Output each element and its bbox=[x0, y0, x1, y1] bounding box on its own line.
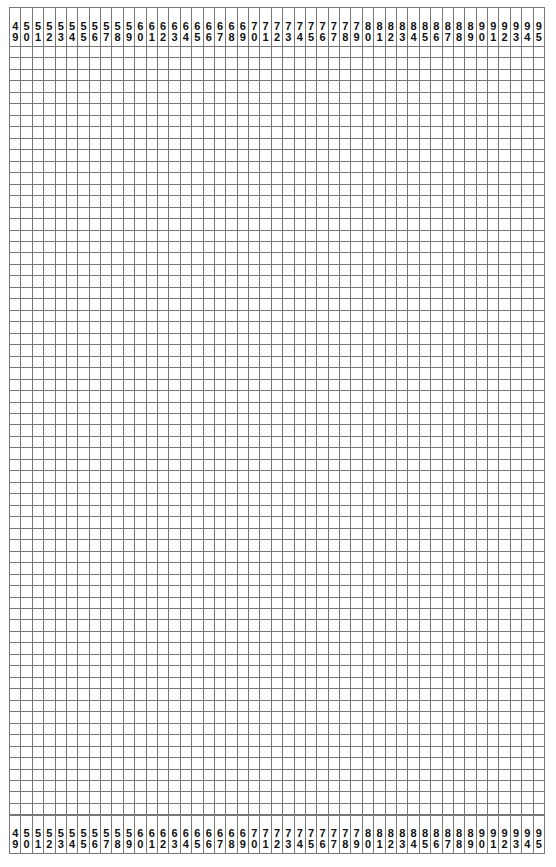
grid-cell bbox=[33, 299, 44, 310]
grid-cell bbox=[340, 322, 351, 333]
grid-cell bbox=[374, 219, 385, 230]
grid-cell bbox=[181, 93, 192, 104]
grid-cell bbox=[21, 724, 32, 735]
grid-cell bbox=[454, 678, 465, 689]
grid-cell bbox=[124, 265, 135, 276]
grid-cell bbox=[158, 529, 169, 540]
grid-cell bbox=[169, 81, 180, 92]
grid-cell bbox=[340, 506, 351, 517]
grid-cell bbox=[204, 162, 215, 173]
grid-cell bbox=[386, 563, 397, 574]
grid-cell bbox=[317, 139, 328, 150]
grid-cell bbox=[522, 425, 533, 436]
grid-cell bbox=[204, 643, 215, 654]
grid-cell bbox=[431, 116, 442, 127]
grid-cell bbox=[181, 253, 192, 264]
grid-cell bbox=[192, 403, 203, 414]
column-header-bottom-label: 77 bbox=[329, 816, 340, 853]
grid-cell bbox=[499, 391, 510, 402]
grid-cell bbox=[204, 127, 215, 138]
grid-cell bbox=[169, 620, 180, 631]
grid-cell bbox=[340, 414, 351, 425]
grid-cell bbox=[90, 311, 101, 322]
grid-cell bbox=[351, 735, 362, 746]
column-header-bottom-label: 89 bbox=[465, 816, 476, 853]
grid-cell bbox=[340, 345, 351, 356]
grid-cell bbox=[101, 276, 112, 287]
grid-cell bbox=[226, 735, 237, 746]
grid-cell bbox=[10, 208, 21, 219]
column-header-top-label: 67 bbox=[215, 8, 226, 46]
grid-cell bbox=[443, 357, 454, 368]
grid-cell bbox=[534, 265, 545, 276]
grid-cell bbox=[374, 391, 385, 402]
grid-cell bbox=[10, 403, 21, 414]
grid-cell bbox=[44, 81, 55, 92]
grid-cell bbox=[204, 460, 215, 471]
grid-cell bbox=[21, 689, 32, 700]
grid-cell bbox=[408, 162, 419, 173]
grid-cell bbox=[283, 689, 294, 700]
grid-cell bbox=[477, 334, 488, 345]
column-header-bottom-label: 75 bbox=[306, 816, 317, 853]
grid-cell bbox=[295, 448, 306, 459]
grid-cell bbox=[283, 265, 294, 276]
grid-cell bbox=[443, 483, 454, 494]
label-ones-digit: 0 bbox=[137, 32, 143, 43]
grid-cell bbox=[465, 322, 476, 333]
grid-cell bbox=[420, 414, 431, 425]
label-ones-digit: 3 bbox=[171, 32, 177, 43]
grid-cell bbox=[477, 162, 488, 173]
grid-cell bbox=[101, 517, 112, 528]
grid-cell bbox=[33, 517, 44, 528]
grid-cell bbox=[204, 540, 215, 551]
grid-cell bbox=[112, 770, 123, 781]
grid-cell bbox=[295, 632, 306, 643]
grid-cell bbox=[158, 666, 169, 677]
grid-cell bbox=[44, 334, 55, 345]
grid-cell bbox=[90, 380, 101, 391]
grid-cell bbox=[158, 47, 169, 58]
grid-cell bbox=[112, 747, 123, 758]
grid-cell bbox=[124, 299, 135, 310]
grid-cell bbox=[204, 219, 215, 230]
grid-cell bbox=[67, 391, 78, 402]
grid-cell bbox=[56, 460, 67, 471]
grid-cell bbox=[465, 609, 476, 620]
grid-cell bbox=[351, 104, 362, 115]
grid-cell bbox=[215, 632, 226, 643]
grid-cell bbox=[112, 666, 123, 677]
grid-cell bbox=[67, 368, 78, 379]
grid-cell bbox=[101, 208, 112, 219]
grid-cell bbox=[215, 758, 226, 769]
grid-cell bbox=[238, 162, 249, 173]
grid-cell bbox=[238, 425, 249, 436]
grid-cell bbox=[465, 93, 476, 104]
label-ones-digit: 7 bbox=[331, 839, 337, 850]
grid-cell bbox=[272, 689, 283, 700]
grid-cell bbox=[169, 380, 180, 391]
grid-cell bbox=[78, 483, 89, 494]
grid-cell bbox=[238, 552, 249, 563]
grid-cell bbox=[124, 322, 135, 333]
grid-cell bbox=[10, 552, 21, 563]
grid-cell bbox=[238, 334, 249, 345]
grid-cell bbox=[158, 540, 169, 551]
grid-cell bbox=[522, 368, 533, 379]
grid-cell bbox=[249, 345, 260, 356]
grid-cell bbox=[340, 792, 351, 803]
grid-cell bbox=[215, 792, 226, 803]
grid-cell bbox=[21, 804, 32, 815]
grid-cell bbox=[215, 253, 226, 264]
grid-cell bbox=[67, 483, 78, 494]
grid-cell bbox=[295, 322, 306, 333]
grid-cell bbox=[169, 586, 180, 597]
grid-cell bbox=[511, 253, 522, 264]
grid-cell bbox=[317, 414, 328, 425]
grid-cell bbox=[33, 747, 44, 758]
grid-cell bbox=[477, 93, 488, 104]
grid-cell bbox=[363, 552, 374, 563]
grid-cell bbox=[408, 322, 419, 333]
grid-cell bbox=[329, 460, 340, 471]
label-ones-digit: 7 bbox=[217, 32, 223, 43]
